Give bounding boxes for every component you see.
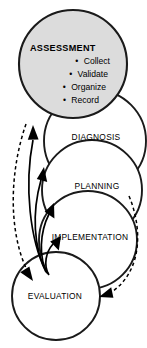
diagram-canvas: DIAGNOSIS PLANNING IMPLEMENTATION EVALUA… (0, 0, 147, 348)
stage-label-implementation: IMPLEMENTATION (52, 232, 129, 242)
assessment-bullet-organize-marker: • (63, 82, 66, 92)
assessment-bullet-collect-text: Collect (84, 56, 111, 66)
connector-feedback-to-assessment-head (28, 125, 39, 140)
stage-label-planning: PLANNING (75, 181, 120, 191)
assessment-bullet-record-marker: • (63, 95, 66, 105)
connector-cycle-return-right-head (99, 287, 113, 298)
stage-label-assessment: ASSESSMENT (30, 43, 96, 53)
connector-assessment-to-evaluation (13, 124, 26, 268)
assessment-bullet-record-text: Record (71, 95, 99, 105)
stage-label-diagnosis: DIAGNOSIS (72, 132, 121, 142)
assessment-bullet-collect: • Collect (75, 56, 110, 66)
assessment-bullet-organize-text: Organize (71, 82, 106, 92)
assessment-bullet-validate-marker: • (69, 69, 72, 79)
assessment-bullet-collect-marker: • (75, 56, 78, 66)
assessment-bullet-validate-text: Validate (78, 69, 109, 79)
stage-label-evaluation: EVALUATION (28, 291, 82, 301)
nursing-process-diagram: DIAGNOSIS PLANNING IMPLEMENTATION EVALUA… (0, 0, 147, 348)
